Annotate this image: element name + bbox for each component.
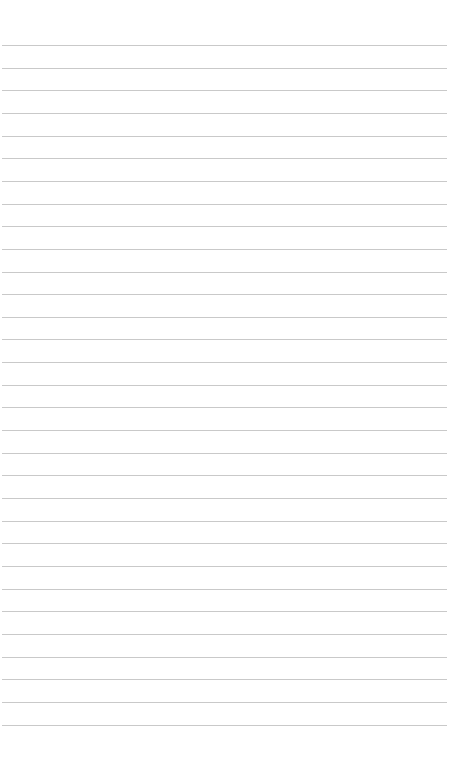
- ruled-line: [2, 113, 447, 114]
- ruled-line: [2, 702, 447, 703]
- ruled-line: [2, 294, 447, 295]
- lined-notebook-page: [0, 0, 449, 781]
- ruled-line: [2, 657, 447, 658]
- ruled-line: [2, 498, 447, 499]
- ruled-line: [2, 521, 447, 522]
- ruled-line: [2, 589, 447, 590]
- ruled-line: [2, 634, 447, 635]
- ruled-line: [2, 158, 447, 159]
- ruled-line: [2, 90, 447, 91]
- ruled-line: [2, 453, 447, 454]
- ruled-line: [2, 272, 447, 273]
- ruled-line: [2, 362, 447, 363]
- ruled-line: [2, 430, 447, 431]
- ruled-line: [2, 136, 447, 137]
- ruled-line: [2, 68, 447, 69]
- ruled-line: [2, 317, 447, 318]
- ruled-line: [2, 475, 447, 476]
- ruled-line: [2, 543, 447, 544]
- ruled-line: [2, 204, 447, 205]
- ruled-line: [2, 679, 447, 680]
- ruled-line: [2, 611, 447, 612]
- ruled-line: [2, 181, 447, 182]
- ruled-line: [2, 339, 447, 340]
- ruled-line: [2, 725, 447, 726]
- ruled-line: [2, 226, 447, 227]
- ruled-line: [2, 566, 447, 567]
- ruled-line: [2, 249, 447, 250]
- ruled-line: [2, 407, 447, 408]
- ruled-line: [2, 45, 447, 46]
- ruled-line: [2, 385, 447, 386]
